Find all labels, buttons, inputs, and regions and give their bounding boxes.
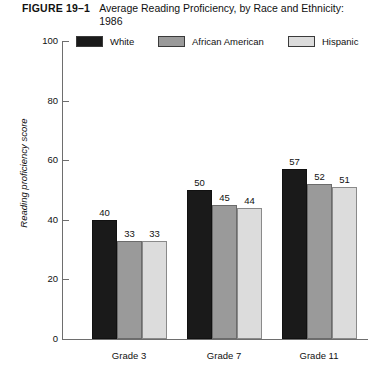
bar: 50 — [187, 190, 212, 339]
y-axis-tick: 80 — [63, 101, 69, 102]
y-axis-tick: 40 — [63, 220, 69, 221]
bar: 40 — [92, 220, 117, 339]
y-axis-tick: 20 — [63, 279, 69, 280]
x-axis-line — [62, 339, 368, 340]
y-axis-title-label: Reading proficiency score — [18, 118, 29, 227]
y-axis-tick-label: 60 — [28, 154, 58, 165]
bar-value-label: 50 — [194, 177, 205, 188]
y-axis-tick: 100 — [63, 41, 69, 42]
bar: 45 — [212, 205, 237, 339]
bar-group: 504544Grade 7 — [187, 41, 262, 339]
bar-value-label: 51 — [339, 174, 350, 185]
bar: 52 — [307, 184, 332, 339]
y-axis-tick-label: 80 — [28, 95, 58, 106]
bar: 51 — [332, 187, 357, 339]
bar: 44 — [237, 208, 262, 339]
y-axis-tick-label: 20 — [28, 273, 58, 284]
bar-value-label: 57 — [289, 156, 300, 167]
x-axis-category-label: Grade 3 — [112, 350, 146, 361]
y-axis-tick: 0 — [63, 339, 69, 340]
bar-value-label: 33 — [124, 228, 135, 239]
figure-caption: FIGURE 19–1 Average Reading Proficiency,… — [22, 2, 374, 28]
bar-value-label: 52 — [314, 171, 325, 182]
y-axis-tick: 60 — [63, 160, 69, 161]
bar: 33 — [142, 241, 167, 339]
bar-value-label: 40 — [99, 207, 110, 218]
plot-area: 020406080100 403333Grade 3504544Grade 75… — [62, 41, 368, 340]
bar-value-label: 33 — [149, 228, 160, 239]
bar: 57 — [282, 169, 307, 339]
y-axis-tick-label: 40 — [28, 214, 58, 225]
figure-number: FIGURE 19–1 — [22, 2, 90, 15]
bar-group: 575251Grade 11 — [282, 41, 357, 339]
figure-title: Average Reading Proficiency, by Race and… — [99, 2, 349, 28]
y-axis-line — [62, 41, 63, 340]
bar-value-label: 45 — [219, 192, 230, 203]
y-axis-tick-label: 100 — [28, 35, 58, 46]
bar-group: 403333Grade 3 — [92, 41, 167, 339]
y-axis-tick-label: 0 — [28, 333, 58, 344]
bar: 33 — [117, 241, 142, 339]
x-axis-category-label: Grade 7 — [207, 350, 241, 361]
bar-value-label: 44 — [244, 195, 255, 206]
x-axis-category-label: Grade 11 — [300, 350, 339, 361]
